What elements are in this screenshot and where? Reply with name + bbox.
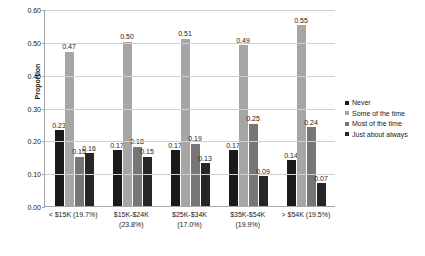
bar[interactable] — [181, 39, 190, 206]
chart-legend: NeverSome of the timeMost of the timeJus… — [345, 99, 423, 141]
bar[interactable] — [249, 124, 258, 206]
legend-swatch-icon — [345, 132, 349, 136]
gridline — [45, 76, 335, 77]
y-axis-tick-mark — [42, 43, 45, 44]
bar[interactable] — [297, 25, 306, 206]
x-axis-category-label: > $54K (19.5%) — [277, 210, 335, 230]
y-axis-tick-label: 0.60 — [27, 7, 41, 14]
y-axis-tick-mark — [42, 10, 45, 11]
legend-swatch-icon — [345, 122, 349, 126]
legend-swatch-icon — [345, 111, 349, 115]
bar-value-label: 0.15 — [140, 148, 154, 155]
y-axis-tick-label: 0.10 — [27, 171, 41, 178]
legend-swatch-icon — [345, 101, 349, 105]
gridline — [45, 109, 335, 110]
legend-label: Some of the time — [352, 110, 405, 117]
bar[interactable] — [317, 183, 326, 206]
y-axis-tick-mark — [42, 207, 45, 208]
legend-item[interactable]: Just about always — [345, 131, 423, 138]
legend-item[interactable]: Never — [345, 99, 423, 106]
bar[interactable] — [133, 147, 142, 206]
y-axis-tick-mark — [42, 174, 45, 175]
bar[interactable] — [85, 153, 94, 206]
legend-label: Never — [352, 99, 371, 106]
bar[interactable] — [143, 157, 152, 206]
y-axis-tick-mark — [42, 109, 45, 110]
x-axis-category-label: $25K-$34K (17.0%) — [160, 210, 218, 230]
gridline — [45, 174, 335, 175]
bar-chart: Proportion 0.230.470.150.160.170.500.180… — [0, 0, 425, 256]
y-axis-tick-label: 0.40 — [27, 72, 41, 79]
legend-item[interactable]: Some of the time — [345, 110, 423, 117]
plot-area: 0.230.470.150.160.170.500.180.150.170.51… — [44, 10, 335, 207]
bar[interactable] — [259, 176, 268, 206]
bar[interactable] — [229, 150, 238, 206]
bar[interactable] — [113, 150, 122, 206]
bar[interactable] — [75, 157, 84, 206]
y-axis-tick-label: 0.20 — [27, 138, 41, 145]
bar[interactable] — [239, 45, 248, 206]
x-axis-category-label: < $15K (19.7%) — [44, 210, 102, 230]
bar[interactable] — [123, 42, 132, 206]
y-axis-tick-label: 0.00 — [27, 204, 41, 211]
gridline — [45, 10, 335, 11]
bar-value-label: 0.13 — [198, 155, 212, 162]
x-axis-category-label: $15K-$24K (23.8%) — [102, 210, 160, 230]
bar[interactable] — [171, 150, 180, 206]
gridline — [45, 141, 335, 142]
legend-label: Most of the time — [352, 120, 402, 127]
legend-label: Just about always — [352, 131, 408, 138]
bar-value-label: 0.16 — [82, 145, 96, 152]
bar[interactable] — [287, 160, 296, 206]
y-axis-tick-mark — [42, 76, 45, 77]
bar-value-label: 0.07 — [314, 175, 328, 182]
bar[interactable] — [307, 127, 316, 206]
x-axis-labels: < $15K (19.7%)$15K-$24K (23.8%)$25K-$34K… — [44, 210, 335, 230]
bar[interactable] — [201, 163, 210, 206]
x-axis-category-label: $35K-$54K (19.9%) — [219, 210, 277, 230]
gridline — [45, 43, 335, 44]
y-axis-tick-label: 0.30 — [27, 105, 41, 112]
y-axis-tick-mark — [42, 141, 45, 142]
legend-item[interactable]: Most of the time — [345, 120, 423, 127]
y-axis-tick-label: 0.50 — [27, 39, 41, 46]
